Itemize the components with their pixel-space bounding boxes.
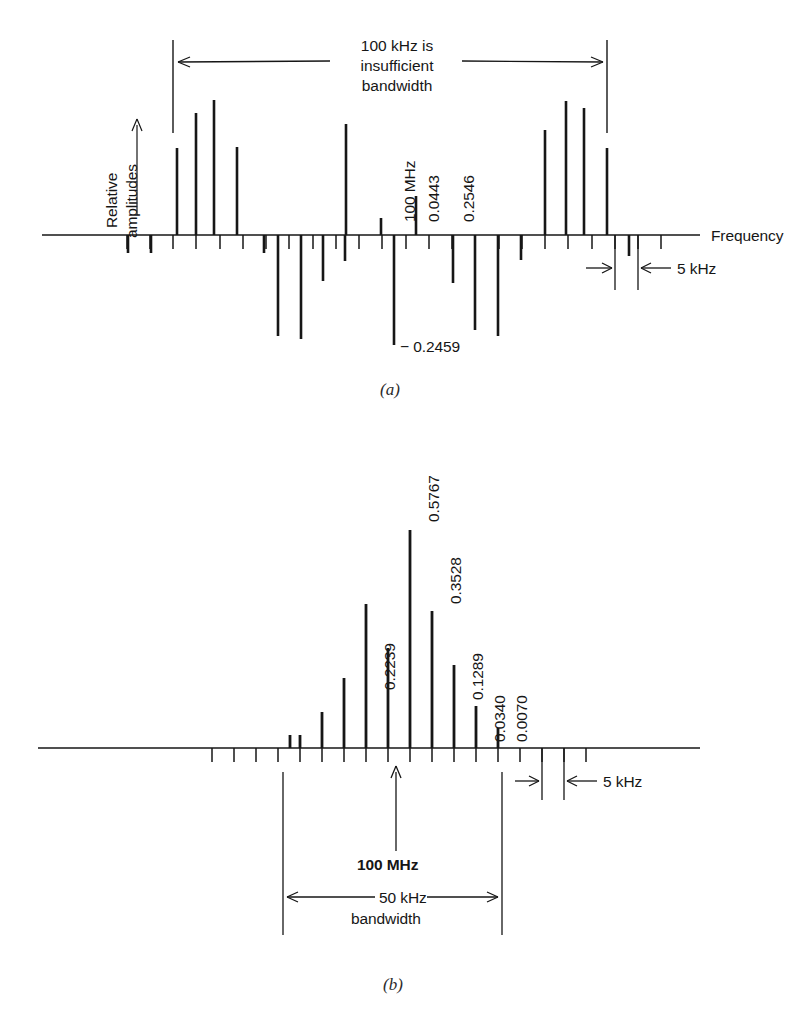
panel-a-center-frequency-label: 100 MHz: [400, 161, 420, 222]
panel-b-label-3528: 0.3528: [446, 557, 466, 604]
panel-b-label-0340: 0.0340: [490, 695, 510, 742]
panel-b-label-0070: 0.0070: [512, 695, 532, 742]
panel-a-bandwidth-note-line1: 100 kHz is: [332, 36, 462, 56]
panel-a-label-2546: 0.2546: [459, 175, 479, 222]
panel-a-label-0443: 0.0443: [424, 175, 444, 222]
panel-b-spectral-lines: [290, 530, 498, 748]
panel-a-yaxis-label-line2: amplitudes: [122, 164, 142, 238]
panel-a-spectral-lines-positive: [177, 100, 607, 235]
panel-b-label-5767: 0.5767: [424, 475, 444, 522]
panel-b-ticks: [212, 748, 586, 762]
panel-a-yaxis-label-line1: Relative: [102, 173, 122, 228]
panel-a-tick-spacing-label: 5 kHz: [677, 259, 716, 279]
panel-b-center-frequency-label: 100 MHz: [357, 855, 418, 875]
panel-a-caption: (a): [380, 380, 400, 400]
panel-b-caption: (b): [383, 975, 403, 995]
panel-b-bandwidth-label: 50 kHz: [379, 888, 427, 908]
panel-a-bandwidth-note: 100 kHz is insufficient bandwidth: [332, 36, 462, 96]
panel-a-bandwidth-note-line3: bandwidth: [332, 76, 462, 96]
panel-b-center-arrow: [391, 766, 401, 851]
panel-b-tick-spacing-label: 5 kHz: [603, 772, 642, 792]
panel-b-label-1289: 0.1289: [468, 653, 488, 700]
panel-a-xaxis-label: Frequency: [711, 226, 783, 246]
panel-b-label-2239: 0.2239: [380, 643, 400, 690]
spectrum-figure: 100 kHz is insufficient bandwidth Relati…: [0, 0, 812, 1019]
panel-b-bandwidth-label-line2: bandwidth: [351, 909, 421, 929]
panel-a-spectral-lines-negative: [128, 235, 629, 345]
panel-b-tick-gap-arrows: [515, 748, 597, 800]
panel-a-bandwidth-note-line2: insufficient: [332, 56, 462, 76]
panel-a-label-neg-2459: − 0.2459: [400, 337, 460, 357]
